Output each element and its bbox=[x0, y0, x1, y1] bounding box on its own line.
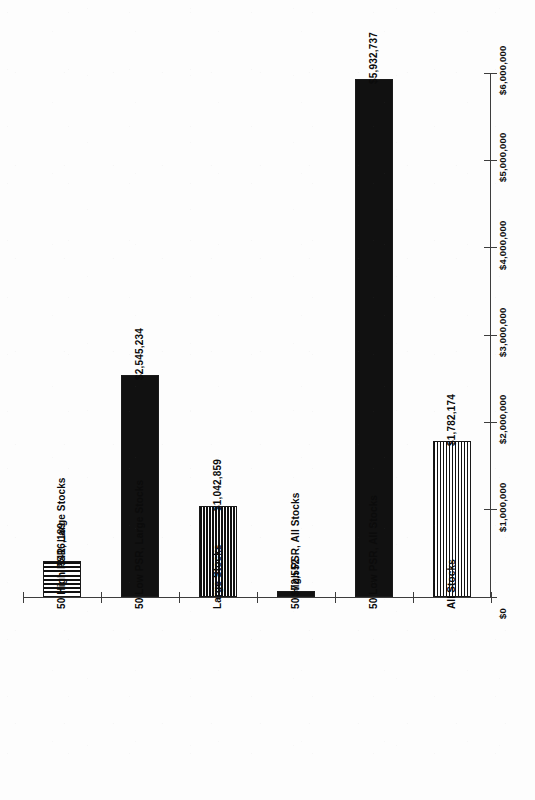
y-axis-tick-label: $0 bbox=[497, 608, 508, 619]
y-axis-tick bbox=[484, 335, 497, 336]
y-axis-tick-label: $1,000,000 bbox=[497, 482, 508, 532]
y-axis-tick-label: $2,000,000 bbox=[497, 395, 508, 445]
x-axis-tick bbox=[491, 592, 492, 603]
y-axis-tick bbox=[484, 509, 497, 510]
y-axis-tick bbox=[484, 422, 497, 423]
y-axis-tick bbox=[484, 247, 497, 248]
y-axis-tick-label: $5,000,000 bbox=[497, 133, 508, 183]
x-axis-category-label: 50 Low PSR, All Stocks bbox=[368, 495, 379, 609]
x-axis-tick bbox=[335, 592, 336, 603]
x-axis-category-label: All Stocks bbox=[446, 559, 457, 609]
x-axis-tick bbox=[257, 592, 258, 603]
x-axis-tick bbox=[23, 592, 24, 603]
bar-chart: $0$1,000,000$2,000,000$3,000,000$4,000,0… bbox=[0, 0, 535, 800]
x-axis-category-label: Large Stocks bbox=[212, 544, 223, 609]
y-axis-tick-label: $6,000,000 bbox=[497, 45, 508, 95]
x-axis-tick bbox=[101, 592, 102, 603]
x-axis-category-label: 50 High PSR, All Stocks bbox=[290, 493, 301, 609]
x-axis-tick bbox=[179, 592, 180, 603]
x-axis-category-label: 50 Low PSR, Large Stocks bbox=[134, 480, 145, 609]
bar-value-label: $1,782,174 bbox=[446, 394, 457, 446]
y-axis-tick-label: $4,000,000 bbox=[497, 220, 508, 270]
bar-value-label: $5,932,737 bbox=[368, 32, 379, 84]
y-axis-tick bbox=[484, 160, 497, 161]
bar-value-label: $2,545,234 bbox=[134, 328, 145, 380]
x-axis-tick bbox=[413, 592, 414, 603]
x-axis-category-label: 50 High PSR, Large Stocks bbox=[56, 477, 67, 609]
bar-value-label: $1,042,859 bbox=[212, 459, 223, 511]
y-axis-tick-label: $3,000,000 bbox=[497, 307, 508, 357]
y-axis-tick bbox=[484, 73, 497, 74]
